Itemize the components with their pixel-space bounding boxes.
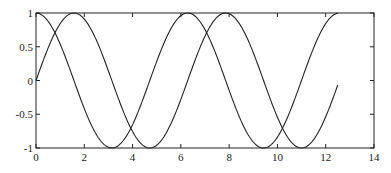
x-tick-labels: 02468101214 <box>33 151 380 163</box>
series-cos-line <box>36 13 338 148</box>
x-tick-label: 0 <box>33 151 39 163</box>
x-tick-label: 10 <box>272 151 284 163</box>
tick-marks <box>36 13 374 148</box>
x-tick-label: 14 <box>369 151 381 163</box>
y-tick-label: 0.5 <box>19 41 33 53</box>
plot-frame <box>36 13 374 148</box>
series-sin-line <box>36 13 338 148</box>
data-series <box>36 13 338 148</box>
x-tick-label: 2 <box>82 151 88 163</box>
x-tick-label: 8 <box>226 151 232 163</box>
y-tick-label: -1 <box>24 142 33 154</box>
y-tick-label: -0.5 <box>16 108 34 120</box>
line-chart: 02468101214 10.50-0.5-1 <box>0 0 391 173</box>
y-tick-label: 1 <box>28 7 34 19</box>
x-tick-label: 6 <box>178 151 184 163</box>
x-tick-label: 4 <box>130 151 136 163</box>
x-tick-label: 12 <box>320 151 331 163</box>
y-tick-labels: 10.50-0.5-1 <box>16 7 34 154</box>
axes-box <box>36 13 374 148</box>
y-tick-label: 0 <box>28 75 34 87</box>
